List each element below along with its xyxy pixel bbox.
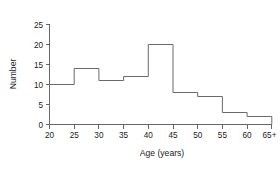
y-tick-marks [46, 25, 50, 125]
x-tick-label-55: 55 [218, 131, 228, 140]
x-tick-label-35: 35 [119, 131, 129, 140]
x-tick-label-30: 30 [94, 131, 104, 140]
x-tick-label-20: 20 [45, 131, 55, 140]
y-tick-label-5: 5 [38, 101, 43, 110]
x-tick-label-40: 40 [144, 131, 154, 140]
y-tick-label-10: 10 [34, 81, 44, 90]
x-tick-label-50: 50 [193, 131, 203, 140]
plot-area: 0 5 10 15 20 25 20 25 30 35 40 45 50 55 … [0, 0, 280, 170]
x-tick-label-45: 45 [168, 131, 178, 140]
x-tick-label-65plus: 65+ [263, 131, 277, 140]
y-tick-label-25: 25 [34, 21, 44, 30]
y-tick-label-0: 0 [38, 121, 43, 130]
x-axis-title: Age (years) [140, 148, 185, 158]
x-tick-label-25: 25 [70, 131, 80, 140]
x-tick-label-60: 60 [243, 131, 253, 140]
histogram-step-outline [50, 45, 272, 125]
y-tick-label-20: 20 [34, 41, 44, 50]
x-tick-marks [50, 125, 272, 129]
histogram-chart: 0 5 10 15 20 25 20 25 30 35 40 45 50 55 … [0, 0, 280, 170]
y-axis-title: Number [8, 59, 18, 90]
y-tick-label-15: 15 [34, 61, 44, 70]
